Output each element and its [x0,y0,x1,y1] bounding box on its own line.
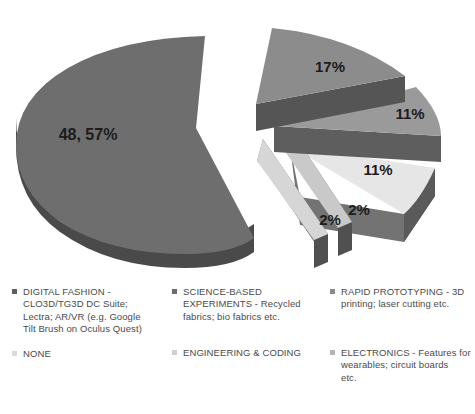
chart-legend: DIGITAL FASHION - CLO3D/TG3D DC Suite; L… [0,286,475,414]
legend-spacer-3 [330,315,475,347]
slice-rapid-label: 17% [315,58,345,75]
legend-item-electronics[interactable]: ELECTRONICS - Features for wearables; ci… [330,347,475,384]
slice-engineering-label: 2% [348,201,370,218]
legend-label-rapid-prototyping-line1: RAPID PROTOTYPING - 3D [341,286,475,298]
legend-item-digital-fashion[interactable]: DIGITAL FASHION - CLO3D/TG3D DC Suite; L… [12,286,164,336]
legend-label-electronics-line1: ELECTRONICS - Features for [341,347,475,359]
legend-spacer-1 [12,340,164,348]
legend-column-2: SCIENCE-BASED EXPERIMENTS - Recycled fab… [172,286,322,364]
legend-spacer-2 [172,327,322,347]
pie-chart-graphic: 11% 2% 2% 11% [0,0,475,285]
pie-svg: 11% 2% 2% 11% [0,0,475,285]
legend-item-rapid-prototyping[interactable]: RAPID PROTOTYPING - 3D printing; laser c… [330,286,475,311]
legend-item-none[interactable]: NONE [12,348,164,360]
legend-label-digital-fashion-line3: Lectra; AR/VR (e.g. Google [23,311,164,323]
legend-label-science-based-line1: SCIENCE-BASED [183,286,322,298]
pie-chart-figure: 11% 2% 2% 11% [0,0,475,414]
legend-label-engineering-coding: ENGINEERING & CODING [183,347,322,359]
legend-label-science-based-line3: fabrics; bio fabrics etc. [183,311,322,323]
legend-label-electronics-line3: etc. [341,372,475,384]
legend-swatch-science-based [172,289,177,294]
legend-swatch-electronics [330,350,335,355]
legend-swatch-none [12,351,17,356]
slice-electronics-label: 11% [363,161,392,178]
slice-none-label: 2% [319,211,341,228]
slice-none-side2 [314,234,328,268]
legend-label-electronics-line2: wearables; circuit boards [341,359,475,371]
legend-swatch-engineering-coding [172,350,177,355]
legend-label-digital-fashion-line4: Tilt Brush on Oculus Quest) [23,323,164,335]
legend-column-1: DIGITAL FASHION - CLO3D/TG3D DC Suite; L… [12,286,164,364]
slice-science-label: 11% [395,105,424,122]
legend-label-science-based-line2: EXPERIMENTS - Recycled [183,298,322,310]
legend-label-rapid-prototyping-line2: printing; laser cutting etc. [341,298,475,310]
legend-column-3: RAPID PROTOTYPING - 3D printing; laser c… [330,286,475,388]
slice-digital-fashion[interactable]: 48, 57% [16,36,254,268]
slice-digital-fashion-label: 48, 57% [59,126,118,143]
legend-label-none: NONE [23,348,164,360]
legend-item-engineering-coding[interactable]: ENGINEERING & CODING [172,347,322,359]
legend-item-science-based[interactable]: SCIENCE-BASED EXPERIMENTS - Recycled fab… [172,286,322,323]
legend-label-digital-fashion-line2: CLO3D/TG3D DC Suite; [23,298,164,310]
legend-label-digital-fashion-line1: DIGITAL FASHION - [23,286,164,298]
legend-swatch-digital-fashion [12,289,17,294]
legend-swatch-rapid-prototyping [330,289,335,294]
